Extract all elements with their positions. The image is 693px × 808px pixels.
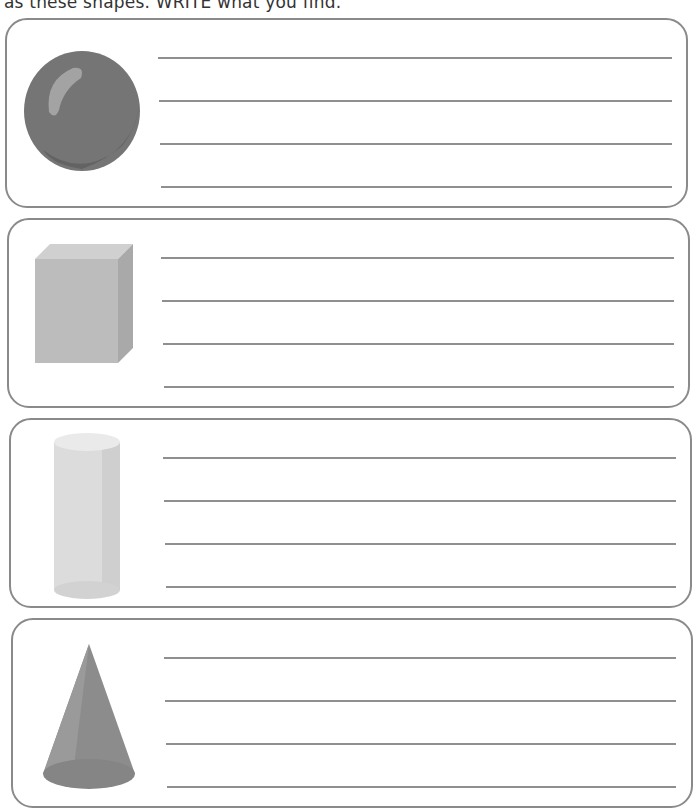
writing-line[interactable]	[161, 186, 672, 188]
writing-line[interactable]	[165, 700, 676, 702]
cylinder-icon	[53, 432, 123, 600]
writing-line[interactable]	[164, 500, 676, 502]
writing-line[interactable]	[162, 300, 674, 302]
writing-line[interactable]	[166, 743, 676, 745]
writing-line[interactable]	[164, 657, 676, 659]
writing-line[interactable]	[165, 543, 676, 545]
sphere-icon	[23, 50, 141, 172]
cone-icon	[42, 644, 136, 790]
shape-box-cone	[11, 618, 693, 808]
writing-line[interactable]	[161, 257, 674, 259]
instruction-text: as these shapes. WRITE what you find.	[4, 0, 341, 12]
writing-line[interactable]	[159, 100, 672, 102]
shape-box-cylinder	[9, 418, 692, 608]
writing-line[interactable]	[163, 343, 674, 345]
writing-line[interactable]	[164, 386, 674, 388]
shape-box-sphere	[5, 18, 688, 208]
shape-box-rectangular-prism	[7, 218, 690, 408]
writing-line[interactable]	[158, 57, 672, 59]
rectangular-prism-icon	[35, 244, 135, 364]
writing-line[interactable]	[167, 786, 676, 788]
writing-line[interactable]	[163, 457, 676, 459]
writing-line[interactable]	[166, 586, 676, 588]
writing-line[interactable]	[160, 143, 672, 145]
